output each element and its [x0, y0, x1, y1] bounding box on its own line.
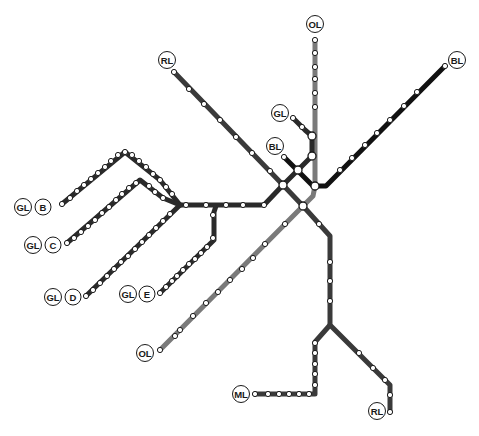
- label-gl-b-line[interactable]: GL: [15, 199, 32, 216]
- label-gl-c-branch[interactable]: C: [45, 237, 61, 253]
- label-ol-south[interactable]: OL: [137, 345, 154, 362]
- svg-text:BL: BL: [451, 55, 464, 66]
- label-bl-east[interactable]: BL: [449, 52, 466, 69]
- label-ol-north[interactable]: OL: [307, 16, 324, 33]
- svg-text:GL: GL: [26, 240, 39, 251]
- svg-text:BL: BL: [269, 141, 282, 152]
- svg-text:GL: GL: [16, 202, 29, 213]
- svg-text:GL: GL: [46, 292, 59, 303]
- label-gl-c-line[interactable]: GL: [25, 237, 42, 254]
- svg-text:GL: GL: [121, 289, 134, 300]
- label-rl-north[interactable]: RL: [159, 52, 176, 69]
- line-labels: RL OL BL GL BL GL B GL C GL D GL E OL ML…: [15, 16, 466, 420]
- label-ml-south[interactable]: ML: [233, 386, 250, 403]
- svg-text:OL: OL: [308, 19, 321, 30]
- label-gl-d-line[interactable]: GL: [45, 289, 62, 306]
- stations: [59, 37, 447, 414]
- label-gl-e-branch[interactable]: E: [139, 286, 155, 302]
- svg-text:E: E: [144, 289, 150, 300]
- label-rl-south[interactable]: RL: [369, 403, 386, 420]
- svg-text:GL: GL: [273, 108, 286, 119]
- label-bl-bowdoin[interactable]: BL: [267, 138, 284, 155]
- transit-map: RL OL BL GL BL GL B GL C GL D GL E OL ML…: [0, 0, 479, 436]
- svg-text:ML: ML: [234, 389, 248, 400]
- label-gl-lechmere[interactable]: GL: [272, 105, 289, 122]
- label-gl-b-branch[interactable]: B: [35, 199, 51, 215]
- svg-text:RL: RL: [161, 55, 174, 66]
- label-gl-d-branch[interactable]: D: [65, 289, 81, 305]
- svg-text:B: B: [40, 202, 47, 213]
- svg-text:D: D: [70, 292, 77, 303]
- svg-text:RL: RL: [371, 406, 384, 417]
- svg-text:C: C: [50, 240, 57, 251]
- label-gl-e-line[interactable]: GL: [120, 286, 137, 303]
- svg-text:OL: OL: [138, 348, 151, 359]
- blue-line[interactable]: [284, 66, 445, 186]
- red-line[interactable]: [174, 72, 390, 412]
